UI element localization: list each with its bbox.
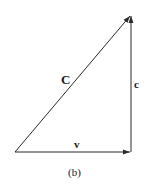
vector-C-arrow bbox=[15, 16, 130, 152]
vector-c-label: c bbox=[134, 78, 139, 90]
figure-caption: (b) bbox=[68, 166, 81, 179]
vector-C-label: C bbox=[61, 72, 70, 87]
vector-v-label: v bbox=[74, 138, 80, 150]
vector-diagram: C c v (b) bbox=[0, 0, 145, 190]
